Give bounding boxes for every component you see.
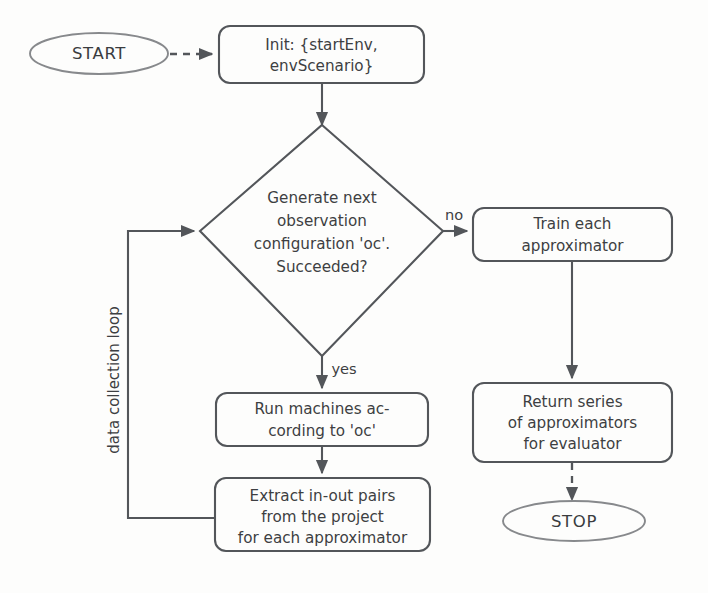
node-init-line-1: Init: {startEnv, bbox=[265, 36, 377, 54]
node-start[interactable]: START bbox=[30, 33, 168, 74]
node-init[interactable]: Init: {startEnv, envScenario} bbox=[219, 26, 424, 83]
node-extract[interactable]: Extract in-out pairs from the project fo… bbox=[215, 478, 430, 551]
node-decision-line-4: Succeeded? bbox=[276, 258, 367, 276]
node-run-machines-line-1: Run machines ac- bbox=[254, 400, 389, 418]
node-run-machines[interactable]: Run machines ac- cording to 'oc' bbox=[216, 393, 428, 446]
node-decision[interactable]: Generate next observation configuration … bbox=[200, 125, 443, 356]
edge-label-no: no bbox=[445, 206, 463, 223]
node-decision-line-2: observation bbox=[277, 212, 367, 230]
node-stop-label: STOP bbox=[551, 512, 597, 531]
node-stop[interactable]: STOP bbox=[503, 501, 645, 541]
node-return-series-line-2: of approximators bbox=[508, 414, 638, 432]
node-train-line-2: approximator bbox=[521, 237, 624, 255]
edge-label-yes: yes bbox=[331, 360, 356, 377]
node-return-series[interactable]: Return series of approximators for evalu… bbox=[473, 383, 672, 462]
edge-label-data-collection-loop: data collection loop bbox=[105, 306, 123, 453]
node-train[interactable]: Train each approximator bbox=[473, 208, 672, 261]
node-return-series-line-3: for evaluator bbox=[524, 435, 623, 453]
flowchart-svg: no yes data collection loop START Init: … bbox=[0, 0, 708, 593]
flowchart-canvas: no yes data collection loop START Init: … bbox=[0, 0, 708, 593]
node-run-machines-line-2: cording to 'oc' bbox=[268, 422, 376, 440]
node-init-line-2: envScenario} bbox=[270, 57, 374, 75]
node-extract-line-1: Extract in-out pairs bbox=[250, 487, 396, 505]
node-extract-line-3: for each approximator bbox=[238, 529, 408, 547]
edge-decision-to-train: no bbox=[443, 206, 467, 231]
node-start-label: START bbox=[72, 44, 126, 63]
node-decision-line-3: configuration 'oc'. bbox=[254, 235, 390, 253]
node-return-series-line-1: Return series bbox=[522, 393, 622, 411]
edge-decision-to-run: yes bbox=[322, 356, 357, 388]
edge-loop-back: data collection loop bbox=[105, 231, 216, 518]
node-train-line-1: Train each bbox=[533, 215, 612, 233]
node-extract-line-2: from the project bbox=[261, 508, 384, 526]
node-decision-line-1: Generate next bbox=[267, 189, 376, 207]
